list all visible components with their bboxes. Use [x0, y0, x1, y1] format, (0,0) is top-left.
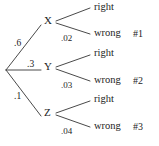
node-label-z: Z	[44, 107, 51, 118]
branch-root-to-x	[6, 25, 41, 70]
probability-label-x: .6	[14, 39, 21, 49]
outcome-label-z-wrong: wrong	[94, 121, 121, 132]
probability-tree-figure: .6 .3 .1 X Y Z right .02 wrong #1 right …	[0, 0, 159, 146]
outcome-marker-2: #2	[133, 76, 143, 86]
outcome-marker-1: #1	[133, 29, 143, 39]
branch-y-to-right	[56, 55, 90, 67]
probability-label-y: .3	[27, 60, 34, 70]
outcome-label-y-right: right	[94, 48, 114, 59]
branch-root-to-z	[6, 70, 41, 116]
outcome-label-x-right: right	[94, 2, 114, 13]
outcome-label-x-wrong: wrong	[94, 28, 121, 39]
probability-label-z: .1	[14, 92, 21, 102]
branch-x-to-right	[56, 8, 90, 21]
outcome-label-z-right: right	[94, 94, 114, 105]
outcome-label-y-wrong: wrong	[94, 75, 121, 86]
probability-label-z-wrong: .04	[61, 127, 72, 136]
branch-z-to-right	[56, 101, 90, 113]
node-label-x: X	[44, 15, 52, 26]
probability-label-x-wrong: .02	[61, 34, 72, 43]
probability-label-y-wrong: .03	[61, 81, 72, 90]
node-label-y: Y	[44, 61, 52, 72]
outcome-marker-3: #3	[133, 122, 143, 132]
